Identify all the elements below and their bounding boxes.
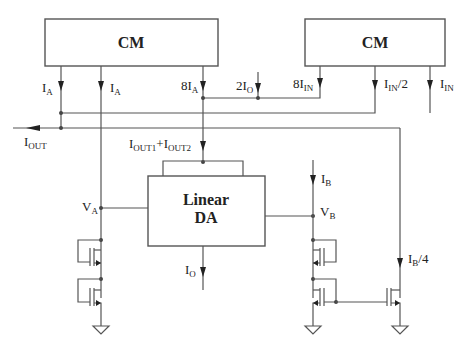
arrow-down-icon: [255, 83, 261, 93]
cm-right-label: CM: [362, 34, 389, 51]
arrow-down-icon: [397, 258, 403, 268]
arrow-down-icon: [372, 80, 378, 90]
node-va-dot: [99, 206, 103, 210]
node-dot: [256, 96, 260, 100]
circuit-diagram: CM CM Linear DA: [0, 0, 468, 350]
node-dot: [201, 96, 205, 100]
label-iout-sum: IOUT1+IOUT2: [129, 136, 191, 153]
node-dot: [59, 111, 63, 115]
cm-left-label: CM: [118, 34, 145, 51]
da-label-line2: DA: [194, 209, 218, 226]
label-io: IO: [185, 262, 196, 279]
output-nmos: [387, 288, 408, 334]
arrow-down-icon: [200, 267, 206, 277]
left-nmos-stack: [78, 238, 109, 334]
label-2io: 2IO: [236, 78, 254, 95]
arrow-left-icon: [26, 125, 40, 131]
node-dot: [59, 126, 63, 130]
label-iout: IOUT: [24, 134, 47, 151]
ground-icon: [392, 326, 408, 334]
label-8ia: 8IA: [181, 78, 199, 95]
label-ib-quarter: IB/4: [408, 251, 429, 268]
wire-iin-half: [61, 66, 375, 113]
label-vb: VB: [320, 204, 335, 221]
right-nmos-stack: [305, 238, 387, 334]
arrow-down-icon: [200, 81, 206, 91]
arrow-down-icon: [427, 80, 433, 90]
label-va: VA: [82, 199, 98, 216]
arrow-down-icon: [58, 81, 64, 91]
label-ib: IB: [321, 171, 331, 188]
ground-icon: [93, 326, 109, 334]
arrow-down-icon: [98, 81, 104, 91]
ground-icon: [305, 326, 321, 334]
da-label-line1: Linear: [183, 191, 229, 208]
arrow-down-icon: [310, 175, 316, 185]
label-iin: IIN: [440, 76, 454, 93]
arrow-down-icon: [317, 78, 323, 88]
label-8iin: 8IIN: [293, 76, 314, 93]
label-ia-1: IA: [42, 80, 53, 97]
arrow-down-icon: [200, 141, 206, 151]
label-iin-half: IIN/2: [384, 76, 408, 93]
label-ia-2: IA: [110, 80, 121, 97]
